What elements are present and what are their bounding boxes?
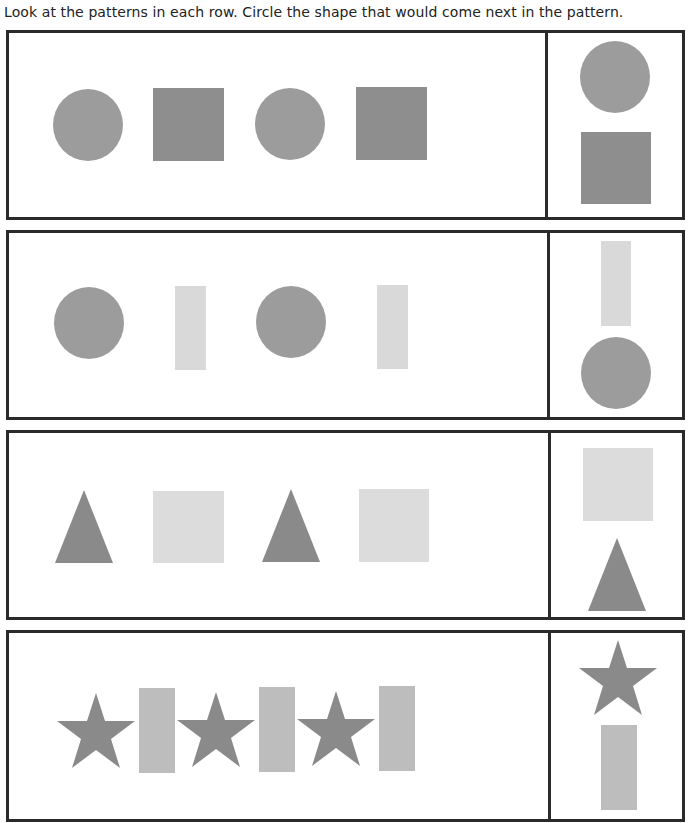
square-shape	[153, 88, 224, 161]
pattern-box	[6, 230, 550, 420]
square-shape	[359, 489, 429, 562]
circle-shape	[255, 88, 325, 160]
choice-circle[interactable]	[580, 41, 650, 113]
pattern-row-1	[6, 30, 685, 220]
pattern-box	[6, 30, 548, 220]
answer-box	[545, 30, 685, 220]
triangle-shape	[262, 489, 322, 563]
circle-shape	[53, 89, 123, 161]
rectangle-shape	[377, 285, 408, 369]
star-shape	[297, 691, 375, 767]
pattern-row-4	[6, 630, 685, 822]
circle-shape	[256, 286, 326, 358]
square-shape	[356, 87, 427, 160]
pattern-row-3	[6, 430, 685, 620]
choice-square[interactable]	[583, 448, 653, 521]
pattern-box	[6, 630, 551, 822]
rectangle-shape	[379, 686, 415, 771]
circle-shape	[54, 287, 124, 359]
square-shape	[153, 491, 224, 563]
rectangle-shape	[175, 286, 206, 370]
choice-triangle[interactable]	[588, 538, 648, 612]
rectangle-shape	[259, 687, 295, 772]
choice-rectangle[interactable]	[601, 241, 631, 326]
choice-circle[interactable]	[581, 337, 651, 409]
answer-box	[548, 630, 685, 822]
choice-rectangle[interactable]	[601, 725, 637, 810]
answer-box	[548, 430, 685, 620]
choice-square[interactable]	[581, 132, 651, 204]
pattern-row-2	[6, 230, 685, 420]
pattern-box	[6, 430, 551, 620]
star-shape	[57, 693, 135, 769]
answer-box	[547, 230, 685, 420]
triangle-shape	[55, 490, 115, 564]
choice-star[interactable]	[579, 640, 657, 716]
rectangle-shape	[139, 688, 175, 773]
instructions: Look at the patterns in each row. Circle…	[4, 4, 623, 20]
star-shape	[177, 692, 255, 768]
